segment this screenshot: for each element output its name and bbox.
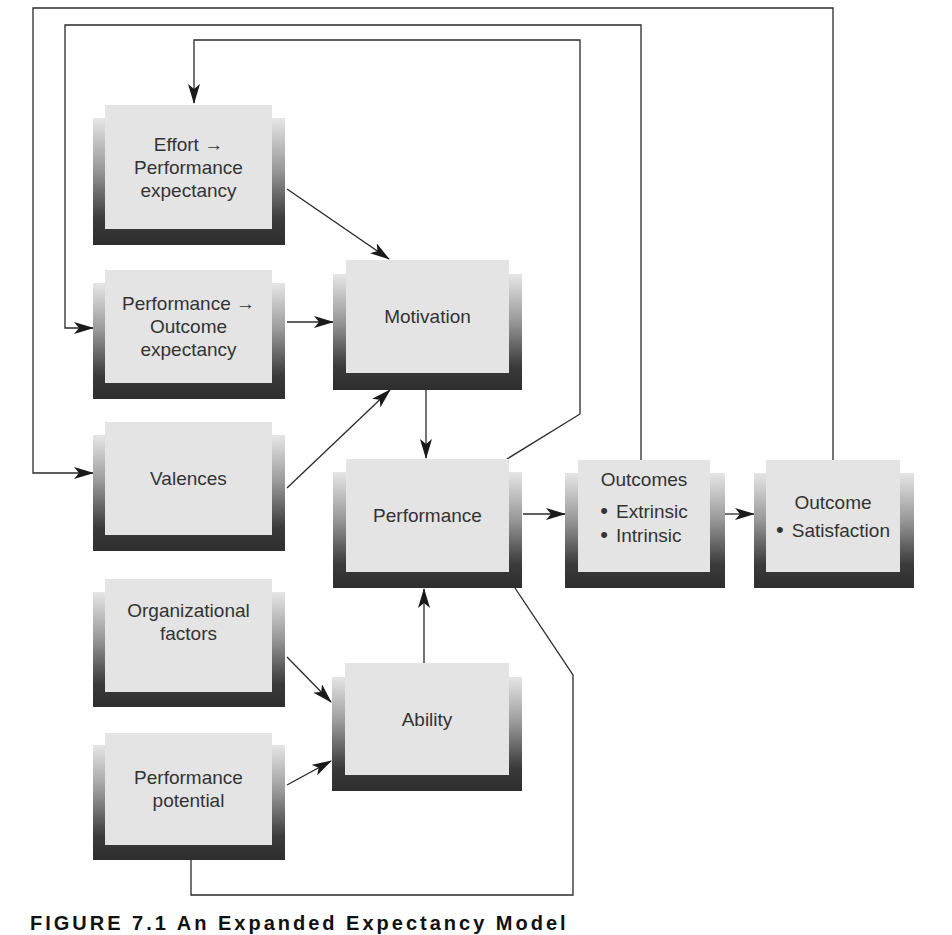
bullet-item: Satisfaction [776,518,890,542]
box-label-line: expectancy [140,338,236,361]
bullet-list: Extrinsic Intrinsic [600,499,688,547]
box-label-line: Performance → [122,292,255,315]
box-organizational-factors: Organizational factors [93,579,285,707]
edge-perf-potential-to-ability [287,761,331,785]
bullet-list: Satisfaction [776,518,890,542]
box-face: Valences [105,422,272,535]
box-face: Performance → Outcome expectancy [105,270,272,383]
box-label-line: Organizational [127,599,250,622]
box-face: Motivation [346,260,509,373]
box-label-line: Motivation [384,305,471,328]
box-title: Outcome [794,491,871,514]
edge-org-factors-to-ability [287,657,331,702]
box-ability: Ability [332,663,522,791]
box-label-line: expectancy [140,179,236,202]
box-face: Organizational factors [105,579,272,692]
box-face: Outcomes Extrinsic Intrinsic [578,460,710,572]
box-face: Ability [345,663,509,775]
box-label-line: Performance [134,766,243,789]
box-label-line: factors [160,622,217,645]
box-outcome-satisfaction: Outcome Satisfaction [754,460,914,588]
box-label-line: Performance [373,504,482,527]
box-valences: Valences [93,422,285,551]
box-label-line: Valences [150,467,227,490]
box-title: Outcomes [601,468,688,491]
edge-effort-to-motivation [287,189,389,259]
box-face: Performance [346,459,509,572]
box-label-line: Ability [402,708,453,731]
box-label-line: Effort → [154,133,223,156]
box-label-line: Outcome [150,315,227,338]
box-motivation: Motivation [333,260,522,390]
box-performance: Performance [333,459,522,588]
bullet-item: Intrinsic [600,523,688,547]
box-performance-outcome-expectancy: Performance → Outcome expectancy [93,270,285,399]
bullet-item: Extrinsic [600,499,688,523]
box-outcomes: Outcomes Extrinsic Intrinsic [565,460,725,588]
box-performance-potential: Performance potential [93,733,285,860]
box-effort-performance-expectancy: Effort → Performance expectancy [93,105,285,245]
box-label-line: Performance [134,156,243,179]
box-face: Outcome Satisfaction [766,460,900,572]
box-face: Effort → Performance expectancy [105,105,272,229]
box-face: Performance potential [105,733,272,845]
box-label-line: potential [153,789,225,812]
figure-caption: FIGURE 7.1 An Expanded Expectancy Model [30,912,569,935]
